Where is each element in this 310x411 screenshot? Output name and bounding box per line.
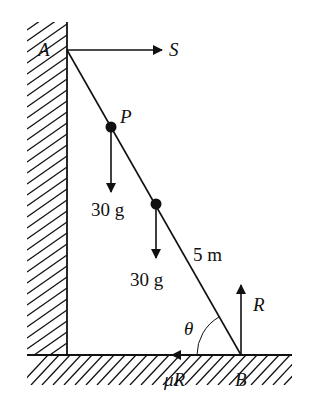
label-weight-2: 30 g — [130, 270, 163, 289]
label-b: B — [235, 370, 247, 389]
label-length: 5 m — [193, 245, 222, 264]
label-s: S — [169, 40, 179, 59]
label-theta: θ — [184, 319, 193, 338]
label-p: P — [120, 107, 132, 126]
ladder-diagram — [0, 0, 310, 411]
label-a: A — [38, 40, 50, 59]
label-weight-1: 30 g — [91, 200, 124, 219]
wall-hatching — [27, 2, 67, 404]
angle-arc — [197, 317, 219, 355]
label-friction: μR — [164, 370, 185, 389]
label-r: R — [253, 295, 265, 314]
